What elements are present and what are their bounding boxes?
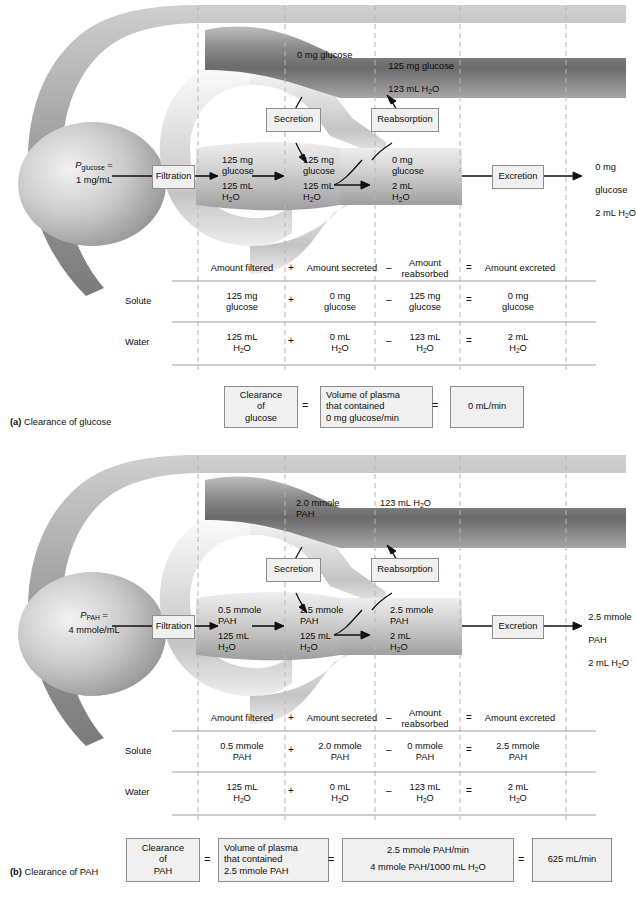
reabsorption-box-b[interactable]: Reabsorption bbox=[371, 558, 439, 582]
clearance-op1-b: = bbox=[204, 853, 210, 865]
clearance-op1-a: = bbox=[302, 399, 308, 411]
solute-op-equals-b: = bbox=[466, 744, 472, 755]
tubule-postreabsorption-solute-b: 2.5 mmole PAH bbox=[390, 605, 433, 628]
water-op-plus-a: + bbox=[288, 335, 294, 346]
clearance-fraction-numerator-b: 2.5 mmole PAH/min bbox=[387, 845, 469, 856]
plasma-equals: = bbox=[107, 160, 112, 170]
plasma-value: 1 mg/mL bbox=[76, 175, 112, 185]
solute-excreted-a: 0 mg glucose bbox=[474, 291, 562, 314]
plasma-subscript-b: PAH bbox=[86, 614, 99, 621]
table-header-secreted-a: Amount secreted bbox=[296, 263, 388, 274]
plasma-value-b: 4 mmole/mL bbox=[68, 625, 119, 635]
excreted-line3-a: 2 mL H2O bbox=[595, 208, 636, 218]
tubule-postsecretion-solute-a: 125 mg glucose bbox=[303, 155, 335, 178]
water-reabsorbed-b: 123 mLH2O bbox=[386, 782, 464, 806]
capillary-secreted-label-b: 2.0 mmole PAH bbox=[296, 498, 339, 521]
reabsorption-box-a[interactable]: Reabsorption bbox=[371, 108, 439, 132]
clearance-result-box-b: 625 mL/min bbox=[532, 838, 612, 882]
water-filtered-b: 125 mLH2O bbox=[198, 782, 286, 806]
water-op-equals-a: = bbox=[466, 335, 472, 346]
tubule-filtered-solute-a: 125 mg glucose bbox=[222, 155, 254, 178]
cap-reab-line2-a: 123 mL H2O bbox=[388, 84, 439, 94]
tubule-postsecretion-water-b: 125 mLH2O bbox=[300, 631, 331, 655]
tubule-postreabsorption-solute-a: 0 mg glucose bbox=[392, 155, 424, 178]
excreted-label-a: 0 mg glucose 2 mL H2O bbox=[585, 151, 636, 233]
secretion-box-b[interactable]: Secretion bbox=[266, 558, 321, 582]
water-excreted-b: 2 mLH2O bbox=[474, 782, 562, 806]
table-header-op-plus-a: + bbox=[288, 262, 294, 273]
capillary-reabsorbed-label-b: 123 mL H2O bbox=[380, 498, 431, 511]
table-header-filtered-b: Amount filtered bbox=[198, 713, 286, 724]
solute-secreted-a: 0 mg glucose bbox=[296, 291, 384, 314]
clearance-volume-box-b: Volume of plasma that contained 2.5 mmol… bbox=[218, 838, 329, 882]
table-header-reabsorbed-a: Amountreabsorbed bbox=[386, 258, 464, 279]
table-row-label-water-a: Water bbox=[125, 337, 149, 347]
tubule-postreabsorption-water-a: 2 mLH2O bbox=[392, 181, 413, 205]
tubule-postreabsorption-water-b: 2 mLH2O bbox=[390, 631, 411, 655]
solute-op-plus-a: + bbox=[288, 294, 294, 305]
filtration-box-b[interactable]: Filtration bbox=[152, 615, 195, 639]
clearance-fraction-denominator-b: 4 mmole PAH/1000 mL H2O bbox=[370, 862, 485, 875]
peritubular-capillary-band-b bbox=[205, 476, 626, 548]
plasma-subscript: glucose bbox=[82, 164, 105, 171]
clearance-op2-b: = bbox=[328, 853, 334, 865]
excreted-line2-a: glucose bbox=[595, 185, 627, 195]
tubule-postsecretion-water-a: 125 mLH2O bbox=[303, 181, 334, 205]
excreted-line3-b: 2 mL H2O bbox=[588, 658, 629, 668]
table-header-op-equals-a: = bbox=[466, 262, 472, 273]
filtration-box-a[interactable]: Filtration bbox=[152, 165, 195, 189]
panel-b-caption: (b) Clearance of PAH bbox=[10, 867, 98, 877]
panel-a-caption-text: Clearance of glucose bbox=[24, 417, 111, 427]
water-secreted-b: 0 mLH2O bbox=[296, 782, 384, 806]
clearance-term-box-b: Clearance of PAH bbox=[126, 838, 200, 882]
panel-b-caption-text: Clearance of PAH bbox=[24, 867, 98, 877]
panel-a-caption-marker: (a) bbox=[10, 417, 21, 427]
table-header-op-equals-b: = bbox=[466, 712, 472, 723]
nephron-anatomy-illustration-a bbox=[0, 0, 626, 449]
table-row-label-water-b: Water bbox=[125, 787, 149, 797]
table-header-excreted-b: Amount excreted bbox=[474, 713, 566, 724]
panel-clearance-of-glucose: Pglucose = 1 mg/mL Filtration Secretion … bbox=[0, 0, 626, 449]
capillary-secreted-label-a: 0 mg glucose bbox=[297, 50, 352, 61]
tubule-filtered-water-a: 125 mLH2O bbox=[222, 181, 253, 205]
water-reabsorbed-a: 123 mLH2O bbox=[386, 332, 464, 356]
clearance-volume-box-a: Volume of plasma that contained 0 mg glu… bbox=[320, 386, 433, 428]
table-row-label-solute-b: Solute bbox=[125, 746, 151, 756]
solute-excreted-b: 2.5 mmole PAH bbox=[474, 741, 562, 764]
cap-reab-line1-a: 125 mg glucose bbox=[388, 61, 454, 71]
clearance-op2-a: = bbox=[432, 399, 438, 411]
tubule-filtered-solute-b: 0.5 mmole PAH bbox=[218, 605, 261, 628]
secretion-box-a[interactable]: Secretion bbox=[266, 108, 321, 132]
plasma-concentration-label-a: Pglucose = 1 mg/mL bbox=[34, 159, 154, 186]
water-op-plus-b: + bbox=[288, 785, 294, 796]
tubule-postsecretion-solute-b: 2.5 mmole PAH bbox=[300, 605, 343, 628]
panel-b-caption-marker: (b) bbox=[10, 867, 22, 877]
excreted-line2-b: PAH bbox=[588, 635, 606, 645]
table-header-op-plus-b: + bbox=[288, 712, 294, 723]
solute-op-plus-b: + bbox=[288, 744, 294, 755]
table-header-filtered-a: Amount filtered bbox=[198, 263, 286, 274]
table-header-secreted-b: Amount secreted bbox=[296, 713, 388, 724]
plasma-equals-b: = bbox=[102, 610, 107, 620]
excretion-box-a[interactable]: Excretion bbox=[492, 165, 544, 189]
solute-filtered-a: 125 mg glucose bbox=[198, 291, 286, 314]
panel-a-caption: (a) Clearance of glucose bbox=[10, 417, 111, 427]
solute-secreted-b: 2.0 mmole PAH bbox=[296, 741, 384, 764]
excreted-line1-b: 2.5 mmole bbox=[588, 612, 631, 622]
plasma-concentration-label-b: PPAH = 4 mmole/mL bbox=[24, 609, 164, 636]
panel-clearance-of-pah: PPAH = 4 mmole/mL Filtration Secretion R… bbox=[0, 450, 626, 899]
solute-reabsorbed-b: 0 mmole PAH bbox=[386, 741, 464, 764]
water-op-equals-b: = bbox=[466, 785, 472, 796]
clearance-op3-b: = bbox=[518, 853, 524, 865]
excreted-label-b: 2.5 mmole PAH 2 mL H2O bbox=[578, 601, 632, 683]
clearance-result-box-a: 0 mL/min bbox=[450, 386, 524, 428]
clearance-term-box-a: Clearance of glucose bbox=[224, 386, 298, 428]
clearance-fraction-box-b: 2.5 mmole PAH/min 4 mmole PAH/1000 mL H2… bbox=[342, 838, 514, 882]
tubule-filtered-water-b: 125 mLH2O bbox=[218, 631, 249, 655]
table-header-reabsorbed-b: Amountreabsorbed bbox=[386, 708, 464, 729]
table-header-excreted-a: Amount excreted bbox=[474, 263, 566, 274]
excretion-box-b[interactable]: Excretion bbox=[492, 615, 544, 639]
capillary-reabsorbed-label-a: 125 mg glucose 123 mL H2O bbox=[378, 50, 454, 109]
water-secreted-a: 0 mLH2O bbox=[296, 332, 384, 356]
solute-filtered-b: 0.5 mmole PAH bbox=[198, 741, 286, 764]
